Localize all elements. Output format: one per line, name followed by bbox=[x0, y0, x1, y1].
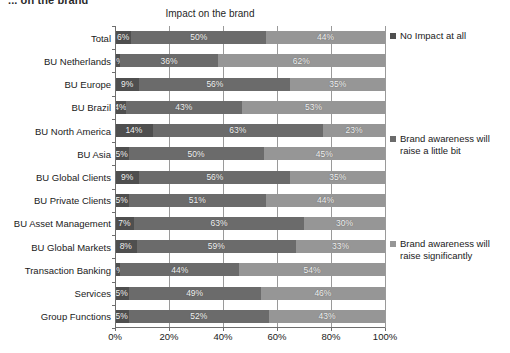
category-label: Group Functions bbox=[41, 311, 111, 322]
bar-segment: 5% bbox=[115, 147, 129, 160]
bar-segment-label: 35% bbox=[329, 173, 346, 182]
bar-segment-label: 5% bbox=[115, 150, 129, 159]
bar-segment: 9% bbox=[115, 78, 139, 91]
x-axis-tick-label: 40% bbox=[213, 331, 232, 342]
category-label: Total bbox=[91, 32, 111, 43]
legend-swatch-icon bbox=[390, 33, 396, 39]
x-axis-tick bbox=[223, 328, 224, 331]
bar-segment-label: 53% bbox=[305, 103, 322, 112]
y-axis-tick bbox=[112, 328, 115, 329]
bar-segment: 9% bbox=[115, 171, 139, 184]
x-axis-tick-label: 60% bbox=[267, 331, 286, 342]
bar-segment: 35% bbox=[290, 171, 385, 184]
chart-bar-row: Group Functions5%52%43% bbox=[115, 310, 385, 323]
x-axis-tick-label: 80% bbox=[321, 331, 340, 342]
chart-bar-row: BU Asset Management7%63%30% bbox=[115, 217, 385, 230]
x-axis-tick-label: 0% bbox=[108, 331, 122, 342]
bar-segment-label: 14% bbox=[124, 126, 143, 135]
bar-segment-label: 5% bbox=[115, 196, 129, 205]
bar-segment-label: 49% bbox=[186, 289, 203, 298]
chart-plot-area: Total6%50%44%BU Netherlands2%36%62%BU Eu… bbox=[115, 26, 385, 328]
legend-label: Brand awareness will raise a little bit bbox=[400, 133, 508, 156]
bar-segment: 36% bbox=[120, 54, 217, 67]
bar-segment-label: 36% bbox=[160, 57, 177, 66]
bar-segment: 5% bbox=[115, 194, 129, 207]
category-label: Transaction Banking bbox=[25, 264, 111, 275]
gridline bbox=[385, 26, 386, 328]
bar-segment: 43% bbox=[269, 310, 385, 323]
bar-segment-label: 51% bbox=[189, 196, 206, 205]
bar-segment-label: 5% bbox=[115, 312, 129, 321]
bar-segment: 63% bbox=[134, 217, 304, 230]
x-axis-tick bbox=[331, 328, 332, 331]
bar-segment: 62% bbox=[218, 54, 385, 67]
bar-segment: 7% bbox=[115, 217, 134, 230]
bar-segment-label: 4% bbox=[115, 103, 126, 112]
bar-segment: 5% bbox=[115, 287, 129, 300]
legend-item[interactable]: Brand awareness will raise a little bit bbox=[390, 133, 508, 156]
bar-segment: 51% bbox=[129, 194, 267, 207]
bar-segment: 8% bbox=[115, 240, 137, 253]
chart-bar-row: BU Private Clients5%51%44% bbox=[115, 194, 385, 207]
bar-segment: 46% bbox=[261, 287, 385, 300]
chart-bars: Total6%50%44%BU Netherlands2%36%62%BU Eu… bbox=[115, 26, 385, 328]
bar-segment-label: 43% bbox=[318, 312, 335, 321]
bar-segment: 30% bbox=[304, 217, 385, 230]
category-label: BU Asia bbox=[77, 148, 111, 159]
x-axis-tick-labels: 0%20%40%60%80%100% bbox=[115, 331, 385, 347]
bar-segment: 56% bbox=[139, 78, 290, 91]
x-axis-tick bbox=[277, 328, 278, 331]
legend-swatch-icon bbox=[390, 241, 396, 247]
bar-segment: 52% bbox=[129, 310, 269, 323]
bar-segment: 53% bbox=[242, 101, 385, 114]
bar-segment-label: 35% bbox=[329, 80, 346, 89]
bar-segment: 49% bbox=[129, 287, 261, 300]
category-label: BU Global Markets bbox=[31, 241, 111, 252]
chart-title: Impact on the brand bbox=[0, 8, 420, 19]
x-axis-tick bbox=[385, 328, 386, 331]
category-label: BU North America bbox=[35, 125, 111, 136]
bar-segment-label: 6% bbox=[116, 33, 130, 42]
bar-segment-label: 8% bbox=[119, 242, 133, 251]
x-axis-line bbox=[115, 327, 385, 328]
bar-segment-label: 59% bbox=[208, 242, 225, 251]
bar-segment: 50% bbox=[131, 31, 266, 44]
bar-segment-label: 23% bbox=[345, 126, 362, 135]
bar-segment: 23% bbox=[323, 124, 385, 137]
chart-bar-row: BU Brazil4%43%53% bbox=[115, 101, 385, 114]
bar-segment-label: 30% bbox=[336, 219, 353, 228]
chart-bar-row: BU Global Clients9%56%35% bbox=[115, 171, 385, 184]
legend-item[interactable]: Brand awareness will raise significantly bbox=[390, 238, 508, 261]
legend-item[interactable]: No Impact at all bbox=[390, 30, 466, 42]
bar-segment: 44% bbox=[266, 31, 385, 44]
bar-segment-label: 52% bbox=[190, 312, 207, 321]
bar-segment-label: 9% bbox=[120, 173, 134, 182]
bar-segment: 54% bbox=[239, 263, 385, 276]
bar-segment: 56% bbox=[139, 171, 290, 184]
bar-segment: 33% bbox=[296, 240, 385, 253]
bar-segment: 44% bbox=[120, 263, 239, 276]
bar-segment-label: 56% bbox=[206, 173, 223, 182]
bar-segment: 63% bbox=[153, 124, 323, 137]
bar-segment-label: 43% bbox=[175, 103, 192, 112]
chart-bar-row: BU Europe9%56%35% bbox=[115, 78, 385, 91]
bar-segment-label: 33% bbox=[332, 242, 349, 251]
bar-segment: 45% bbox=[264, 147, 386, 160]
chart-bar-row: BU Netherlands2%36%62% bbox=[115, 54, 385, 67]
bar-segment: 44% bbox=[266, 194, 385, 207]
bar-segment-label: 7% bbox=[117, 219, 131, 228]
bar-segment-label: 9% bbox=[120, 80, 134, 89]
chart-bar-row: Total6%50%44% bbox=[115, 31, 385, 44]
x-axis-tick bbox=[169, 328, 170, 331]
chart-bar-row: BU Asia5%50%45% bbox=[115, 147, 385, 160]
chart-bar-row: Transaction Banking2%44%54% bbox=[115, 263, 385, 276]
bar-segment-label: 56% bbox=[206, 80, 223, 89]
bar-segment-label: 63% bbox=[210, 219, 227, 228]
bar-segment-label: 62% bbox=[293, 57, 310, 66]
x-axis-tick-label: 20% bbox=[159, 331, 178, 342]
category-label: BU Europe bbox=[65, 79, 111, 90]
bar-segment-label: 45% bbox=[316, 150, 333, 159]
bar-segment-label: 44% bbox=[317, 196, 334, 205]
bar-segment-label: 44% bbox=[171, 266, 188, 275]
legend-label: Brand awareness will raise significantly bbox=[400, 238, 508, 261]
